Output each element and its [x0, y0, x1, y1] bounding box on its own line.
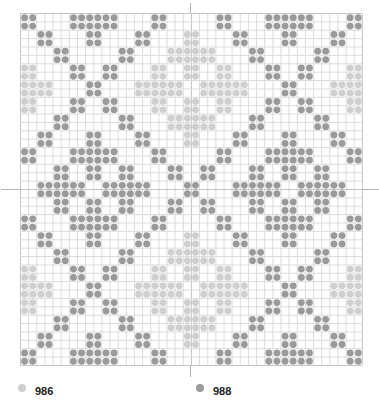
stitch-988	[168, 207, 175, 214]
stitch-988	[298, 224, 305, 231]
stitch-986	[192, 308, 199, 315]
stitch-986	[160, 308, 167, 315]
stitch-988	[160, 148, 167, 155]
stitch-988	[298, 358, 305, 365]
stitch-986	[160, 274, 167, 281]
stitch-988	[217, 23, 224, 30]
stitch-988	[86, 291, 93, 298]
stitch-988	[322, 182, 329, 189]
stitch-988	[54, 115, 61, 122]
legend-item-988: 988	[196, 378, 231, 397]
stitch-988	[127, 48, 134, 55]
stitch-986	[192, 266, 199, 273]
stitch-988	[86, 215, 93, 222]
stitch-988	[306, 349, 313, 356]
stitch-988	[78, 23, 85, 30]
stitch-988	[282, 333, 289, 340]
stitch-988	[233, 341, 240, 348]
stitch-988	[298, 308, 305, 315]
stitch-988	[298, 349, 305, 356]
stitch-986	[192, 73, 199, 80]
stitch-988	[282, 81, 289, 88]
stitch-988	[160, 358, 167, 365]
stitch-988	[265, 157, 272, 164]
stitch-986	[160, 90, 167, 97]
stitch-986	[46, 81, 53, 88]
stitch-988	[168, 174, 175, 181]
stitch-988	[233, 232, 240, 239]
stitch-988	[111, 157, 118, 164]
stitch-986	[208, 81, 215, 88]
stitch-986	[208, 56, 215, 63]
stitch-988	[119, 324, 126, 331]
stitch-988	[86, 14, 93, 21]
stitch-988	[265, 358, 272, 365]
stitch-988	[54, 316, 61, 323]
stitch-988	[265, 23, 272, 30]
stitch-988	[62, 174, 69, 181]
stitch-986	[168, 48, 175, 55]
stitch-986	[21, 65, 28, 72]
stitch-988	[249, 115, 256, 122]
stitch-986	[208, 282, 215, 289]
stitch-986	[168, 56, 175, 63]
stitch-986	[233, 90, 240, 97]
stitch-988	[314, 316, 321, 323]
stitch-988	[127, 207, 134, 214]
stitch-988	[151, 157, 158, 164]
stitch-988	[339, 190, 346, 197]
stitch-988	[241, 140, 248, 147]
stitch-988	[274, 182, 281, 189]
stitch-988	[29, 14, 36, 21]
stitch-988	[62, 249, 69, 256]
stitch-986	[208, 249, 215, 256]
stitch-986	[200, 324, 207, 331]
stitch-988	[78, 98, 85, 105]
stitch-988	[339, 241, 346, 248]
stitch-988	[241, 190, 248, 197]
stitch-988	[322, 56, 329, 63]
stitch-988	[355, 23, 362, 30]
stitch-986	[168, 291, 175, 298]
stitch-986	[21, 282, 28, 289]
stitch-988	[127, 249, 134, 256]
stitch-988	[330, 39, 337, 46]
stitch-988	[314, 56, 321, 63]
stitch-988	[78, 358, 85, 365]
stitch-986	[184, 106, 191, 113]
stitch-986	[29, 90, 36, 97]
stitch-986	[192, 56, 199, 63]
stitch-988	[127, 257, 134, 264]
stitch-986	[176, 291, 183, 298]
stitch-988	[355, 215, 362, 222]
stitch-986	[143, 81, 150, 88]
stitch-986	[225, 282, 232, 289]
stitch-988	[160, 215, 167, 222]
stitch-988	[70, 224, 77, 231]
stitch-988	[70, 157, 77, 164]
stitch-988	[21, 23, 28, 30]
stitch-988	[314, 174, 321, 181]
stitch-988	[111, 266, 118, 273]
stitch-988	[298, 266, 305, 273]
stitch-988	[249, 165, 256, 172]
stitch-988	[86, 358, 93, 365]
stitch-988	[94, 224, 101, 231]
stitch-988	[37, 190, 44, 197]
stitch-988	[290, 90, 297, 97]
stitch-988	[257, 199, 264, 206]
stitch-988	[111, 274, 118, 281]
stitch-988	[21, 358, 28, 365]
stitch-988	[257, 316, 264, 323]
stitch-986	[192, 39, 199, 46]
stitch-986	[217, 90, 224, 97]
stitch-986	[184, 324, 191, 331]
stitch-986	[21, 308, 28, 315]
stitch-988	[274, 224, 281, 231]
stitch-986	[192, 31, 199, 38]
stitch-988	[29, 157, 36, 164]
stitch-988	[339, 232, 346, 239]
stitch-988	[290, 224, 297, 231]
stitch-986	[217, 266, 224, 273]
stitch-986	[176, 56, 183, 63]
